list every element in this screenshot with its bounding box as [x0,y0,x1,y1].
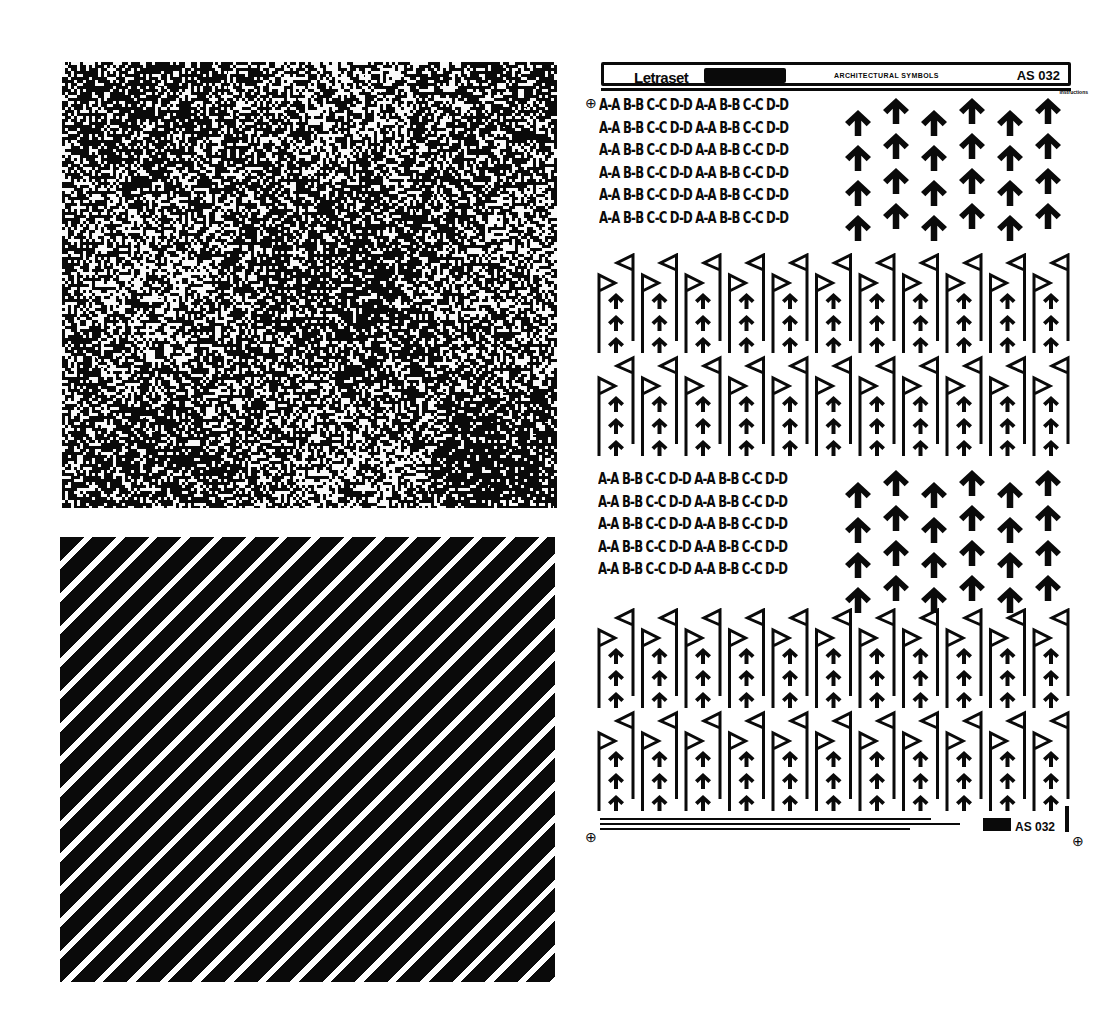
registration-mark-icon: ⊕ [1072,834,1084,848]
sheet-code: AS 032 [1017,68,1060,83]
brand-logo-block [704,68,786,83]
letraset-symbol-sheet: Letraset ARCHITECTURAL SYMBOLS AS 032 in… [585,58,1090,858]
sheet-subtitle: instructions [1059,89,1088,95]
diagonal-stripe-panel [60,537,555,982]
footer-bar [1065,806,1069,832]
header-rule [601,88,1071,91]
north-arrow-grid-top [840,96,1075,246]
noise-texture-canvas [62,62,557,508]
footer-code: AS 032 [1015,820,1055,834]
registration-mark-icon: ⊕ [585,96,597,110]
section-label-grid-bottom: A-A B-B C-C D-D A-A B-B C-C D-D A-A B-B … [598,468,787,581]
north-arrow-grid-bottom [840,468,1075,618]
brand-name: Letraset [634,69,688,86]
sheet-header-box: Letraset ARCHITECTURAL SYMBOLS AS 032 [601,62,1071,86]
flag-arrow-symbol-grid-upper [595,253,1075,458]
random-dot-texture-panel [62,62,557,508]
flag-arrow-symbol-grid-lower [595,608,1075,813]
instruction-text-lines [600,818,960,833]
registration-mark-icon: ⊕ [585,830,597,844]
section-label-grid-top: A-A B-B C-C D-D A-A B-B C-C D-D A-A B-B … [599,94,788,229]
footer-logo-block [983,818,1011,831]
sheet-title: ARCHITECTURAL SYMBOLS [834,72,939,79]
